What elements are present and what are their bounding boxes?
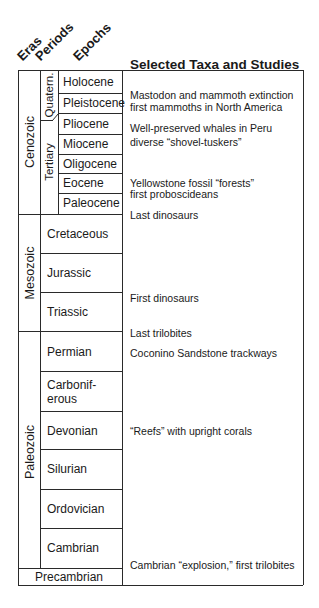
- period-permian: Permian: [47, 345, 92, 359]
- epoch-pliocene: Pliocene: [63, 117, 109, 131]
- epoch-pleistocene: Pleistocene: [63, 96, 125, 110]
- period-devonian: Devonian: [47, 424, 98, 438]
- boundary-oligocene-eocene: [58, 173, 122, 174]
- note-last-dinosaurs: Last dinosaurs: [130, 209, 198, 221]
- boundary-cenozoic-mesozoic: [18, 214, 122, 215]
- boundary-permian-carboniferous: [40, 371, 122, 372]
- note-first-proboscideans: first proboscideans: [130, 188, 218, 200]
- note-coconino-trackways: Coconino Sandstone trackways: [130, 347, 277, 359]
- column-header-epochs: Epochs: [71, 21, 113, 63]
- note-reefs-corals: “Reefs” with upright corals: [130, 425, 252, 437]
- period-carboniferous-line2: erous: [47, 392, 77, 406]
- epoch-holocene: Holocene: [63, 75, 114, 89]
- boundary-silurian-ordovician: [40, 489, 122, 490]
- period-jurassic: Jurassic: [47, 266, 91, 280]
- note-last-trilobites: Last trilobites: [130, 327, 192, 339]
- note-cambrian-explosion: Cambrian “explosion,” first trilobites: [130, 559, 295, 571]
- table-border-bottom: [18, 585, 303, 586]
- period-label-tertiary: Tertiary: [42, 127, 56, 197]
- note-whales-peru: Well-preserved whales in Peru: [130, 122, 272, 134]
- period-silurian: Silurian: [47, 462, 87, 476]
- period-triassic: Triassic: [47, 305, 88, 319]
- epoch-miocene: Miocene: [63, 137, 108, 151]
- boundary-paleozoic-precambrian: [18, 568, 122, 569]
- boundary-eocene-paleocene: [58, 193, 122, 194]
- era-label-mesozoic: Mesozoic: [23, 238, 37, 308]
- boundary-jurassic-triassic: [40, 292, 122, 293]
- period-cretaceous: Cretaceous: [47, 227, 108, 241]
- boundary-carboniferous-devonian: [40, 411, 122, 412]
- period-label-quaternary: Quatern.: [42, 60, 56, 130]
- note-first-mammoths: first mammoths in North America: [130, 101, 282, 113]
- epoch-paleocene: Paleocene: [63, 196, 120, 210]
- boundary-miocene-oligocene: [58, 154, 122, 155]
- epoch-eocene: Eocene: [63, 176, 104, 190]
- period-carboniferous-line1: Carbonif-: [47, 378, 96, 392]
- note-first-dinosaurs: First dinosaurs: [130, 292, 199, 304]
- period-cambrian: Cambrian: [47, 541, 99, 555]
- table-border-left: [18, 70, 19, 585]
- era-label-precambrian: Precambrian: [35, 570, 103, 584]
- boundary-cretaceous-jurassic: [40, 253, 122, 254]
- era-label-cenozoic: Cenozoic: [23, 107, 37, 177]
- table-border-top: [18, 70, 303, 71]
- boundary-pliocene-miocene: [58, 134, 122, 135]
- boundary-ordovician-cambrian: [40, 528, 122, 529]
- boundary-holocene-pleistocene: [58, 93, 122, 94]
- note-shovel-tuskers: diverse “shovel-tuskers”: [130, 136, 241, 148]
- period-ordovician: Ordovician: [47, 502, 104, 516]
- table-border-right: [303, 70, 304, 585]
- boundary-mesozoic-paleozoic: [18, 331, 122, 332]
- boundary-devonian-silurian: [40, 449, 122, 450]
- boundary-pleistocene-pliocene: [58, 113, 122, 114]
- era-label-paleozoic: Paleozoic: [23, 416, 37, 488]
- epoch-oligocene: Oligocene: [63, 157, 117, 171]
- divider-era-column: [40, 70, 41, 568]
- divider-taxa-column: [122, 70, 123, 585]
- note-mastodon-extinction: Mastodon and mammoth extinction: [130, 89, 293, 101]
